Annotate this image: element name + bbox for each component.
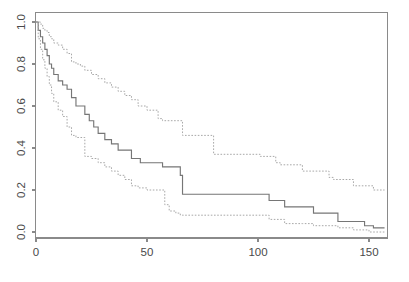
x-tick-label: 50 (141, 246, 154, 258)
data-curves (36, 22, 385, 232)
y-tick-label: 1.0 (15, 14, 27, 30)
y-tick-label: 0.4 (15, 139, 27, 156)
x-tick-label: 0 (33, 246, 39, 258)
curve-solid-survival-estimate (36, 22, 385, 228)
curve-dotted-upper-confidence-limit (36, 22, 385, 190)
y-tick-label: 0.0 (15, 224, 27, 240)
y-tick-label: 0.2 (15, 182, 27, 198)
y-axis-tick-labels: 0.00.20.40.60.81.0 (15, 14, 27, 240)
x-tick-label: 100 (248, 246, 267, 258)
y-tick-label: 0.6 (15, 98, 27, 114)
chart-figure: 0.00.20.40.60.81.0 050100150 (0, 0, 409, 282)
curve-dotted-lower-confidence-limit (36, 22, 385, 232)
x-tick-label: 150 (359, 246, 378, 258)
y-tick-label: 0.8 (15, 56, 27, 72)
kaplan-meier-plot: 0.00.20.40.60.81.0 050100150 (0, 0, 409, 282)
plot-frame (36, 13, 388, 239)
y-axis-ticks (32, 22, 36, 232)
x-axis-tick-labels: 050100150 (33, 246, 379, 258)
x-axis-ticks (36, 238, 369, 242)
